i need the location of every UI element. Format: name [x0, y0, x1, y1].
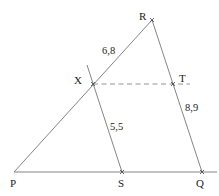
measure-rx: 6,8 [102, 45, 115, 56]
label-r: R [139, 10, 147, 22]
measure-tq: 8,9 [185, 102, 198, 113]
point-markers [91, 18, 204, 174]
label-q: Q [196, 177, 204, 189]
segment-xs [87, 65, 122, 172]
label-x: X [74, 74, 82, 86]
measure-xs: 5,5 [110, 121, 123, 132]
geometry-diagram: R X T P S Q 6,8 5,5 8,9 [0, 0, 219, 196]
label-p: P [10, 177, 16, 189]
segment-pr [14, 20, 152, 172]
label-t: T [179, 72, 186, 84]
label-s: S [118, 177, 124, 189]
segment-rq [152, 20, 202, 172]
